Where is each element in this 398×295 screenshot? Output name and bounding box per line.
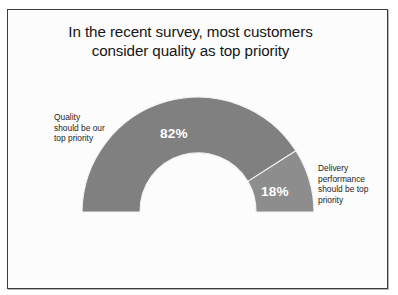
slide-canvas: In the recent survey, most customers con… [0, 0, 398, 295]
donut-chart-svg [0, 0, 398, 295]
callout-delivery-line-2: performance [318, 174, 392, 185]
callout-delivery-line-1: Delivery [318, 163, 392, 174]
callout-quality-line-3: top priority [54, 133, 140, 144]
callout-quality-line-2: should be our [54, 123, 140, 134]
data-label-quality: 82% [160, 126, 188, 141]
callout-delivery-line-4: priority [318, 195, 392, 206]
half-donut-chart: 82% 18% Quality should be our top priori… [0, 0, 398, 295]
callout-label-delivery: Delivery performance should be top prior… [318, 163, 392, 205]
callout-label-quality: Quality should be our top priority [54, 112, 140, 144]
callout-delivery-line-3: should be top [318, 184, 392, 195]
data-label-delivery: 18% [261, 184, 289, 199]
callout-quality-line-1: Quality [54, 112, 140, 123]
